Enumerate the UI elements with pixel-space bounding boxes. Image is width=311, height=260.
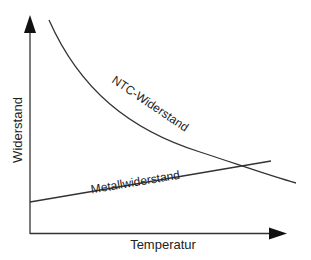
- y-axis-label: Widerstand: [10, 97, 25, 163]
- resistance-temperature-diagram: Temperatur Widerstand NTC-Widerstand Met…: [0, 0, 311, 260]
- x-axis-label: Temperatur: [130, 237, 196, 252]
- y-axis-arrowhead-icon: [24, 15, 36, 33]
- ntc-curve-label: NTC-Widerstand: [109, 73, 191, 135]
- ntc-curve: [49, 20, 296, 183]
- x-axis-arrowhead-icon: [269, 228, 287, 240]
- metal-line-label: Metallwiderstand: [90, 168, 181, 197]
